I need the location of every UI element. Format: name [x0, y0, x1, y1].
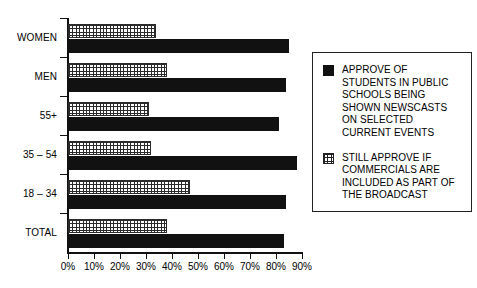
legend-entry-still-approve: STILL APPROVE IF COMMERCIALS ARE INCLUDE… — [323, 152, 463, 202]
category-tick — [60, 213, 68, 214]
solid-swatch-icon — [323, 65, 334, 76]
value-tick-label: 60% — [214, 261, 234, 272]
chart-plot-area: TOTAL18 – 3435 – 5455+MENWOMEN 0%10%20%3… — [0, 0, 310, 288]
category-tick — [60, 96, 68, 97]
category-label-total: TOTAL — [0, 227, 57, 238]
value-tick — [146, 252, 147, 259]
category-axis-line — [67, 252, 302, 254]
category-axis-labels: TOTAL18 – 3435 – 5455+MENWOMEN — [0, 0, 57, 288]
value-tick-label: 10% — [84, 261, 104, 272]
value-tick-label: 40% — [162, 261, 182, 272]
bar-hatch-total — [68, 219, 167, 234]
value-tick-label: 50% — [188, 261, 208, 272]
bar-solid-35-54 — [68, 156, 297, 171]
bar-hatch-men — [68, 63, 167, 78]
value-tick — [68, 252, 69, 259]
value-tick — [276, 252, 277, 259]
bar-hatch-35-54 — [68, 141, 151, 156]
bar-hatch-55 — [68, 102, 149, 117]
category-label-55: 55+ — [0, 110, 57, 121]
value-tick — [250, 252, 251, 259]
crosshatch-swatch-icon — [323, 153, 334, 164]
value-tick — [302, 252, 303, 259]
bar-hatch-women — [68, 24, 156, 39]
bar-solid-women — [68, 39, 289, 54]
value-tick — [172, 252, 173, 259]
bar-solid-total — [68, 234, 284, 249]
value-tick-label: 30% — [136, 261, 156, 272]
category-label-35-54: 35 – 54 — [0, 149, 57, 160]
value-tick-label: 80% — [266, 261, 286, 272]
value-tick-label: 70% — [240, 261, 260, 272]
category-tick — [60, 57, 68, 58]
category-tick — [60, 174, 68, 175]
value-tick-label: 90% — [292, 261, 312, 272]
value-tick — [120, 252, 121, 259]
bar-hatch-18-34 — [68, 180, 190, 195]
category-tick — [60, 18, 68, 19]
category-label-18-34: 18 – 34 — [0, 188, 57, 199]
value-tick-label: 0% — [61, 261, 75, 272]
bar-solid-55 — [68, 117, 279, 132]
value-tick — [224, 252, 225, 259]
bar-solid-18-34 — [68, 195, 286, 210]
chart-legend: APPROVE OF STUDENTS IN PUBLIC SCHOOLS BE… — [312, 52, 472, 212]
value-tick — [94, 252, 95, 259]
category-label-women: WOMEN — [0, 32, 57, 43]
legend-entry-approve: APPROVE OF STUDENTS IN PUBLIC SCHOOLS BE… — [323, 64, 463, 140]
legend-label-still-approve: STILL APPROVE IF COMMERCIALS ARE INCLUDE… — [342, 152, 463, 202]
value-tick-label: 20% — [110, 261, 130, 272]
value-tick — [198, 252, 199, 259]
category-tick — [60, 135, 68, 136]
bar-solid-men — [68, 78, 286, 93]
legend-label-approve: APPROVE OF STUDENTS IN PUBLIC SCHOOLS BE… — [342, 64, 463, 140]
category-label-men: MEN — [0, 71, 57, 82]
